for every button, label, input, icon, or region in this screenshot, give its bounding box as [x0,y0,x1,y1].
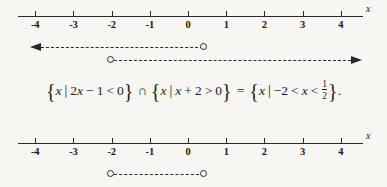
arrow-right-icon [351,56,362,64]
axis-tick-label: 3 [290,19,316,30]
ray-x-plus-2-greater-than-0 [0,54,387,68]
axis-tick-label: -2 [99,19,125,30]
sentence-period: . [338,83,341,98]
set1-variable: x [56,83,62,98]
axis-tick-label: 2 [251,19,277,30]
set2-constant: 2 [195,83,202,98]
axis-tick-label: 0 [175,19,201,30]
open-circle-endpoint [200,43,207,50]
axis-tick [35,11,36,17]
axis-tick [35,138,36,144]
axis-tick [303,11,304,17]
axis-tick-label: 3 [290,146,316,157]
set2-such-that-bar: | [166,83,175,98]
set-intersection-equation: {x|2x−1<0}∩{x|x+2>0}={x|−2<x<12}. [0,79,387,101]
axis-tick [341,11,342,17]
axis-tick-label: 1 [213,19,239,30]
axis-tick [73,138,74,144]
fraction-denominator: 2 [322,89,327,101]
dashed-segment-line [114,174,199,175]
intersection-symbol: ∩ [133,83,150,98]
axis-tick [112,138,113,144]
axis-tick-label: -4 [22,19,48,30]
result-lower-bound: −2 [274,83,288,98]
result-relation-2: < [308,83,322,98]
axis-tick [73,11,74,17]
set1-zero: 0 [117,83,124,98]
open-circle-endpoint [107,56,114,63]
axis-tick [341,138,342,144]
result-open-brace: { [249,80,259,102]
axis-tick [264,11,265,17]
axis-tick [226,11,227,17]
axis-tick-label: 0 [175,146,201,157]
axis-line [18,143,363,144]
set1-minus-sign: − [83,83,97,98]
fraction-numerator: 1 [322,79,327,89]
equals-sign: = [232,83,250,98]
axis-tick-label: -1 [137,19,163,30]
axis-tick-label: 1 [213,146,239,157]
set2-relation: > [202,83,216,98]
set1-relation: < [103,83,117,98]
axis-tick [303,138,304,144]
intersection-segment [0,168,387,182]
axis-tick [188,138,189,144]
axis-tick-label: 2 [251,146,277,157]
result-such-that-bar: | [265,83,274,98]
axis-variable-label: x [366,130,370,141]
bottom-number-line: x -4-3-2-101234 [0,127,387,161]
axis-tick-label: -1 [137,146,163,157]
axis-tick-label: -3 [60,146,86,157]
dashed-ray-line [41,47,203,48]
axis-line [18,16,363,17]
axis-tick-label: -4 [22,146,48,157]
arrow-left-icon [30,43,41,51]
axis-tick [112,11,113,17]
axis-tick [264,138,265,144]
top-number-line: x -4-3-2-101234 [0,0,387,34]
axis-tick [188,11,189,17]
axis-tick [150,138,151,144]
axis-tick [226,138,227,144]
set1-open-brace: { [46,80,56,102]
axis-tick-label: 4 [328,146,354,157]
ray-2x-minus-1-less-than-0 [0,41,387,55]
dashed-ray-line [114,60,351,61]
figure-canvas: x -4-3-2-101234 {x|2x−1<0}∩{x|x+2>0}={x|… [0,0,387,187]
set2-plus-sign: + [181,83,195,98]
result-variable: x [259,83,265,98]
axis-tick-label: -2 [99,146,125,157]
result-close-brace: } [328,80,338,102]
set2-close-brace: } [222,80,232,102]
result-relation-1: < [288,83,302,98]
axis-tick-label: -3 [60,19,86,30]
open-circle-right-endpoint [200,170,207,177]
axis-variable-label: x [366,3,370,14]
open-circle-left-endpoint [107,170,114,177]
axis-tick-label: 4 [328,19,354,30]
result-variable-2: x [302,83,308,98]
axis-tick [150,11,151,17]
